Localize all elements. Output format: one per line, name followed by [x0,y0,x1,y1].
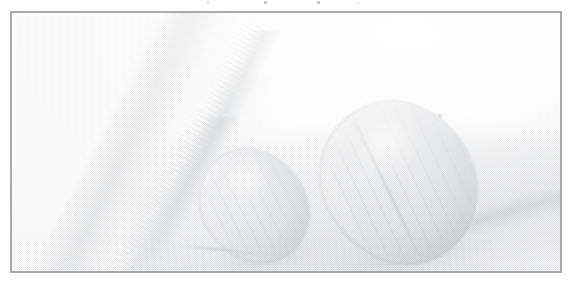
scan-speck [317,1,320,4]
figure-frame [10,11,562,273]
highlight-vignette [12,13,560,271]
scan-speck [207,2,209,4]
scanned-photograph [12,13,560,271]
scan-speck [264,1,267,4]
scan-speck [357,2,359,4]
page [0,0,573,286]
